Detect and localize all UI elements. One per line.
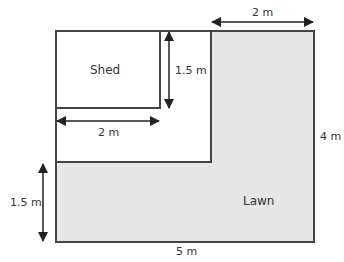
lawn-label: Lawn — [243, 195, 274, 207]
top-width-label: 2 m — [252, 7, 273, 18]
right-height-label: 4 m — [320, 131, 341, 142]
garden-diagram — [0, 0, 344, 262]
lawn-boundary — [56, 31, 211, 162]
left-height-label: 1.5 m — [10, 197, 42, 208]
shed-height-label: 1.5 m — [175, 65, 207, 76]
shed-width-label: 2 m — [98, 127, 119, 138]
shed-label: Shed — [90, 64, 120, 76]
bottom-width-label: 5 m — [176, 246, 197, 257]
